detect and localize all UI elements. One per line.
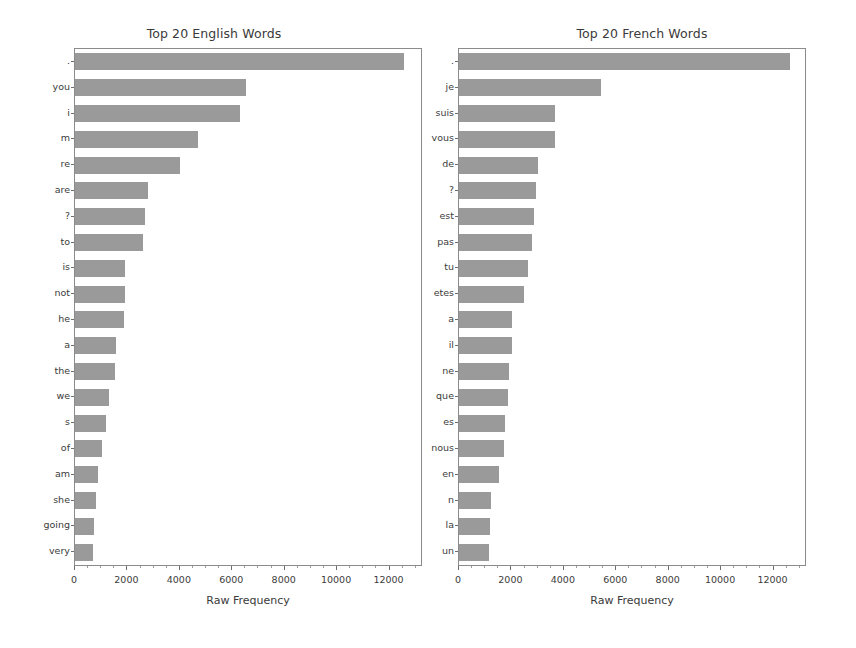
- bar-fill: [75, 389, 109, 406]
- bar-fill: [75, 131, 198, 148]
- y-tick-mark-english-0: [71, 61, 75, 62]
- bar-french-4: [459, 157, 805, 174]
- y-tick-mark-french-4: [455, 164, 459, 165]
- bar-fill: [75, 53, 404, 70]
- x-tick-label-french-0: 0: [455, 575, 461, 585]
- y-tick-label-french-17: n: [394, 495, 454, 505]
- bar-fill: [75, 208, 145, 225]
- x-axis-label-french: Raw Frequency: [428, 594, 856, 607]
- bar-english-8: [75, 260, 421, 277]
- y-tick-mark-french-8: [455, 267, 459, 268]
- y-tick-label-english-9: not: [10, 288, 70, 298]
- x-tick-minor-english: [375, 566, 376, 568]
- bar-french-18: [459, 518, 805, 535]
- bar-fill: [75, 234, 143, 251]
- bar-fill: [75, 311, 124, 328]
- bar-french-10: [459, 311, 805, 328]
- y-tick-mark-french-9: [455, 293, 459, 294]
- y-tick-label-english-17: she: [10, 495, 70, 505]
- x-tick-minor-french: [694, 566, 695, 568]
- bar-fill: [75, 518, 94, 535]
- y-tick-label-french-6: est: [394, 211, 454, 221]
- y-tick-mark-english-19: [71, 551, 75, 552]
- x-tick-minor-english: [218, 566, 219, 568]
- x-tick-minor-english: [166, 566, 167, 568]
- y-tick-mark-english-9: [71, 293, 75, 294]
- x-tick-minor-french: [576, 566, 577, 568]
- bar-fill: [75, 286, 125, 303]
- x-tick-minor-french: [786, 566, 787, 568]
- x-tick-minor-english: [257, 566, 258, 568]
- x-tick-label-english-4: 8000: [272, 575, 296, 585]
- bar-fill: [75, 492, 96, 509]
- y-tick-mark-french-13: [455, 396, 459, 397]
- x-tick-mark-french-3: [615, 566, 616, 570]
- x-tick-minor-english: [362, 566, 363, 568]
- bar-english-1: [75, 79, 421, 96]
- bar-fill: [459, 53, 790, 70]
- y-tick-mark-english-4: [71, 164, 75, 165]
- y-tick-mark-french-11: [455, 345, 459, 346]
- x-tick-minor-english: [192, 566, 193, 568]
- x-tick-label-french-4: 8000: [656, 575, 680, 585]
- y-tick-label-english-6: ?: [10, 211, 70, 221]
- x-tick-mark-english-2: [179, 566, 180, 570]
- y-tick-mark-french-7: [455, 242, 459, 243]
- x-tick-minor-english: [113, 566, 114, 568]
- chart-title-french: Top 20 French Words: [428, 26, 856, 41]
- y-tick-label-french-16: en: [394, 469, 454, 479]
- y-tick-mark-french-12: [455, 371, 459, 372]
- x-tick-minor-french: [746, 566, 747, 568]
- y-tick-mark-english-18: [71, 525, 75, 526]
- bar-fill: [459, 157, 538, 174]
- bar-fill: [459, 234, 532, 251]
- bar-french-2: [459, 105, 805, 122]
- bar-french-6: [459, 208, 805, 225]
- x-tick-label-english-0: 0: [71, 575, 77, 585]
- x-tick-mark-english-5: [336, 566, 337, 570]
- bar-english-9: [75, 286, 421, 303]
- bar-english-18: [75, 518, 421, 535]
- y-tick-label-french-3: vous: [394, 133, 454, 143]
- y-tick-mark-english-1: [71, 87, 75, 88]
- y-tick-label-english-5: are: [10, 185, 70, 195]
- y-tick-label-english-3: m: [10, 133, 70, 143]
- y-tick-label-french-19: un: [394, 546, 454, 556]
- y-tick-mark-french-6: [455, 216, 459, 217]
- x-tick-minor-english: [297, 566, 298, 568]
- chart-panel-french: Top 20 French Words Raw Frequency .jesui…: [428, 0, 856, 648]
- y-tick-mark-french-18: [455, 525, 459, 526]
- y-tick-label-english-19: very: [10, 546, 70, 556]
- bar-french-5: [459, 182, 805, 199]
- x-tick-mark-english-0: [74, 566, 75, 570]
- x-tick-minor-french: [524, 566, 525, 568]
- bar-fill: [459, 466, 499, 483]
- y-tick-label-french-9: etes: [394, 288, 454, 298]
- bar-english-16: [75, 466, 421, 483]
- y-tick-mark-english-3: [71, 138, 75, 139]
- y-tick-mark-english-5: [71, 190, 75, 191]
- bar-fill: [75, 466, 98, 483]
- y-tick-label-english-11: a: [10, 340, 70, 350]
- x-tick-minor-english: [140, 566, 141, 568]
- bar-english-12: [75, 363, 421, 380]
- x-tick-minor-french: [733, 566, 734, 568]
- x-tick-minor-french: [497, 566, 498, 568]
- y-tick-label-french-13: que: [394, 391, 454, 401]
- y-tick-mark-english-2: [71, 113, 75, 114]
- y-tick-mark-english-7: [71, 242, 75, 243]
- x-tick-label-french-3: 6000: [603, 575, 627, 585]
- bar-fill: [75, 415, 106, 432]
- y-tick-label-french-1: je: [394, 82, 454, 92]
- x-tick-minor-french: [628, 566, 629, 568]
- bar-french-7: [459, 234, 805, 251]
- y-tick-mark-french-10: [455, 319, 459, 320]
- y-tick-label-french-7: pas: [394, 237, 454, 247]
- bar-fill: [75, 544, 93, 561]
- y-tick-mark-french-16: [455, 474, 459, 475]
- x-tick-mark-french-5: [720, 566, 721, 570]
- y-tick-mark-french-15: [455, 448, 459, 449]
- x-tick-label-french-6: 12000: [757, 575, 787, 585]
- bar-french-15: [459, 440, 805, 457]
- bar-fill: [75, 363, 115, 380]
